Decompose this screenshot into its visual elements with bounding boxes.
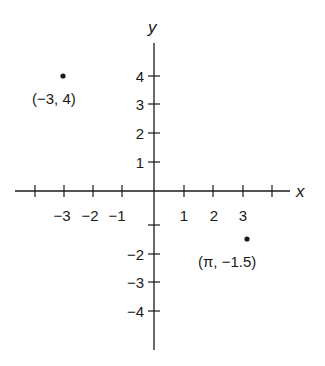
x-tick-labels: −3 −2 −1 1 2 3	[53, 207, 247, 224]
x-tick-label: −2	[81, 207, 98, 224]
y-tick-label: 3	[136, 96, 144, 113]
x-tick-label: −3	[53, 207, 70, 224]
x-tick-label: −1	[108, 207, 125, 224]
x-tick-label: 1	[180, 207, 188, 224]
point-neg3-4	[60, 73, 65, 78]
y-tick-label: −3	[127, 274, 144, 291]
y-tick-label: 2	[136, 125, 144, 142]
point-pi-neg1-5	[244, 236, 249, 241]
y-tick-label: −2	[127, 246, 144, 263]
x-tick-label: 2	[210, 207, 218, 224]
y-tick-label: −4	[127, 303, 144, 320]
y-tick-labels: 4 3 2 1 −2 −3 −4	[127, 68, 144, 320]
y-tick-label: 1	[136, 154, 144, 171]
point-label-neg3-4: (−3, 4)	[32, 90, 76, 107]
point-label-pi-neg1-5: (π, −1.5)	[198, 253, 256, 270]
y-tick-label: 4	[136, 68, 144, 85]
x-axis-label: x	[295, 182, 305, 201]
coordinate-plane: y x −3 −2 −1 1 2 3 4 3 2 1 −2 −3 −4 (−3,…	[0, 0, 325, 366]
y-axis-label: y	[147, 18, 158, 37]
x-tick-label: 3	[239, 207, 247, 224]
